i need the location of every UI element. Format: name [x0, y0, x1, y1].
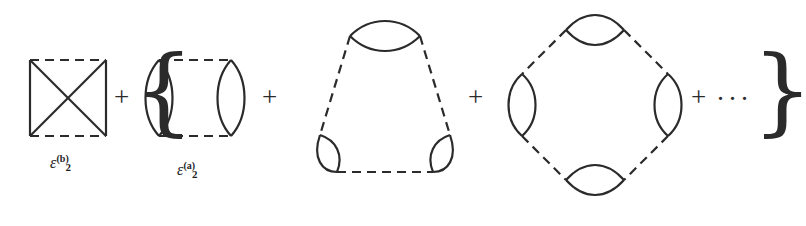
diamond-top-lens-lower-arc [566, 30, 624, 45]
plus-sign-2: + [262, 84, 277, 111]
twobubble-right-lens-outer-arc [231, 60, 245, 136]
diamond-right-lens-outer-arc [668, 74, 682, 136]
diamond-left-lens-outer-arc [509, 74, 523, 136]
plus-sign-1: + [114, 84, 129, 111]
diamond-topleft-dashed-interaction-line [522, 30, 566, 74]
plus-sign-4: + [691, 84, 706, 111]
diamond-bottomright-dashed-interaction-line [624, 136, 668, 180]
label-epsilon-2a: ε(a)2 [177, 160, 197, 180]
label-epsilon-2b-sub: 2 [65, 161, 71, 173]
triangle-bottomright-lens-outer-arc [433, 135, 453, 172]
ellipsis: ··· [716, 86, 752, 113]
label-epsilon-2b-symbol: ε [50, 154, 56, 171]
triangle-top-lens-upper-arc [350, 21, 420, 36]
diamond-topright-dashed-interaction-line [624, 30, 668, 74]
diamond-bottomleft-dashed-interaction-line [522, 136, 566, 180]
diagram-fourth-order-ring [509, 15, 682, 195]
label-epsilon-2b: ε(b)2 [50, 153, 71, 173]
triangle-top-lens-lower-arc [350, 36, 420, 51]
label-epsilon-2a-symbol: ε [177, 161, 183, 178]
triangle-bottomleft-lens-outer-arc [317, 135, 337, 172]
diamond-right-lens-inner-arc [655, 74, 669, 136]
twobubble-right-lens-inner-arc [218, 60, 232, 136]
diamond-left-lens-inner-arc [522, 74, 536, 136]
diamond-bottom-lens-upper-arc [566, 165, 624, 180]
closing-brace: } [752, 42, 806, 138]
diagram-second-order-exchange [30, 60, 106, 136]
triangle-left-dashed-interaction-line [320, 36, 350, 135]
opening-brace: { [133, 42, 194, 138]
label-epsilon-2a-sub: 2 [192, 168, 198, 180]
plus-sign-3: + [468, 84, 483, 111]
diagram-third-order-ring [317, 21, 453, 172]
diamond-top-lens-upper-arc [566, 15, 624, 30]
diamond-bottom-lens-lower-arc [566, 180, 624, 195]
triangle-right-dashed-interaction-line [420, 36, 450, 135]
